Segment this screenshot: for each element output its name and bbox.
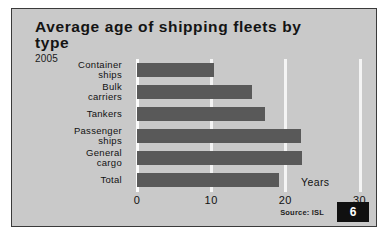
category-label-total: Total bbox=[30, 175, 122, 186]
chart-title: Average age of shipping fleets by type bbox=[35, 19, 325, 51]
category-label-general-cargo: Generalcargo bbox=[30, 148, 122, 169]
plot-area bbox=[126, 59, 371, 192]
bars-layer bbox=[126, 59, 371, 192]
category-label-tankers: Tankers bbox=[30, 109, 122, 120]
bar-total bbox=[137, 173, 279, 187]
units-label: Years bbox=[301, 176, 329, 188]
chart-figure: Average age of shipping fleets by type 2… bbox=[11, 8, 377, 227]
x-tick-0: 0 bbox=[134, 194, 141, 206]
x-axis-tick-labels: 0102030 bbox=[126, 194, 371, 210]
bar-row bbox=[126, 151, 371, 165]
bar-row bbox=[126, 107, 371, 121]
category-label-container-ships: Containerships bbox=[30, 60, 122, 81]
bar-general-cargo bbox=[137, 151, 302, 165]
category-axis-labels: ContainershipsBulkcarriersTankersPasseng… bbox=[30, 59, 122, 192]
source-label: Source: ISL bbox=[280, 208, 324, 217]
bar-row bbox=[126, 85, 371, 99]
page-number-badge: 6 bbox=[337, 202, 369, 222]
x-tick-20: 20 bbox=[279, 194, 292, 206]
bar-passenger-ships bbox=[137, 129, 301, 143]
bar-row bbox=[126, 63, 371, 77]
bar-container-ships bbox=[137, 63, 214, 77]
bar-bulk-carriers bbox=[137, 85, 252, 99]
bar-row bbox=[126, 173, 371, 187]
bar-tankers bbox=[137, 107, 265, 121]
category-label-bulk-carriers: Bulkcarriers bbox=[30, 82, 122, 103]
bar-row bbox=[126, 129, 371, 143]
category-label-passenger-ships: Passengerships bbox=[30, 126, 122, 147]
x-tick-10: 10 bbox=[205, 194, 218, 206]
